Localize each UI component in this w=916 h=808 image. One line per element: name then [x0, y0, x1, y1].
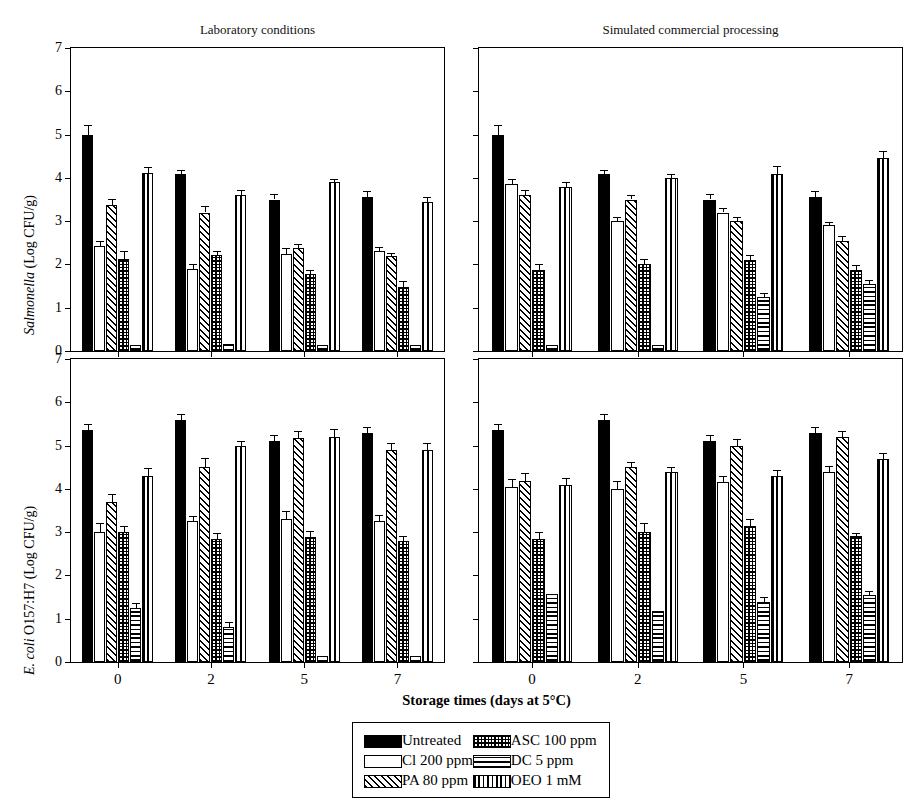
x-axis-tick — [849, 351, 850, 357]
y-axis-tick — [65, 221, 71, 222]
error-bar-cap — [706, 435, 714, 436]
error-bar-cap — [521, 190, 529, 191]
y-axis-tick-label: 6 — [55, 395, 62, 409]
y-axis-tick — [65, 351, 71, 352]
bar — [82, 135, 93, 351]
bar — [410, 345, 421, 351]
bar — [223, 344, 234, 351]
error-bar-cap — [270, 194, 278, 195]
bar — [130, 608, 141, 662]
error-bar-cap — [600, 170, 608, 171]
legend-swatch-cell — [473, 770, 511, 790]
plot-salmonella-laboratory: 012345670257 — [70, 47, 445, 352]
error-bar-cap — [494, 125, 502, 126]
x-axis-tick — [743, 662, 744, 668]
bar — [118, 259, 129, 351]
bar — [744, 526, 757, 662]
plot-ecoli-laboratory: 012345670257 — [70, 358, 445, 663]
y-axis-tick-label: 5 — [55, 439, 62, 453]
bar — [771, 476, 784, 662]
panel-title-right: Simulated commercial processing — [478, 22, 903, 38]
bar — [665, 472, 678, 662]
legend-row: Cl 200 ppm DC 5 ppm — [364, 750, 597, 770]
y-axis-tick — [65, 575, 71, 576]
bar — [611, 489, 624, 662]
bar — [652, 611, 665, 662]
bar — [175, 174, 186, 351]
bar — [823, 472, 836, 662]
plot-ecoli-commercial: 0257 — [478, 358, 903, 663]
error-bar-cap — [865, 280, 873, 281]
bar — [625, 467, 638, 662]
error-bar-cap — [494, 424, 502, 425]
error-bar — [88, 125, 89, 135]
bar — [317, 345, 328, 351]
error-bar-cap — [535, 264, 543, 265]
error-bar-cap — [773, 166, 781, 167]
y-axis-tick — [473, 402, 479, 403]
y-axis-tick — [65, 489, 71, 490]
bar — [492, 430, 505, 662]
bar — [374, 521, 385, 662]
error-bar-cap — [177, 414, 185, 415]
error-bar-cap — [640, 259, 648, 260]
bar — [329, 437, 340, 662]
legend-row: PA 80 ppm OEO 1 mM — [364, 770, 597, 790]
bar — [532, 539, 545, 662]
error-bar-cap — [330, 429, 338, 430]
error-bar-cap — [733, 439, 741, 440]
y-axis-tick — [65, 48, 71, 49]
error-bar-cap — [811, 427, 819, 428]
error-bar-cap — [306, 270, 314, 271]
y-axis-tick — [65, 662, 71, 663]
bar — [269, 200, 280, 352]
y-axis-tick-label: 0 — [55, 655, 62, 669]
y-axis-tick-label: 4 — [55, 171, 62, 185]
error-bar-cap — [760, 597, 768, 598]
y-axis-tick — [473, 575, 479, 576]
y-axis-tick-label: 6 — [55, 84, 62, 98]
error-bar-cap — [96, 241, 104, 242]
error-bar-cap — [667, 467, 675, 468]
y-axis-tick — [473, 178, 479, 179]
error-bar-cap — [879, 151, 887, 152]
y-axis-label-bottom-unit: O157:H7 (Log CFU/g) — [22, 506, 37, 639]
bar — [281, 519, 292, 662]
y-axis-tick — [65, 264, 71, 265]
error-bar-cap — [144, 167, 152, 168]
error-bar-cap — [189, 264, 197, 265]
error-bar-cap — [108, 494, 116, 495]
bar — [235, 195, 246, 351]
bar — [505, 184, 518, 351]
error-bar — [124, 251, 125, 259]
error-bar-cap — [282, 248, 290, 249]
error-bar-cap — [201, 206, 209, 207]
plot-salmonella-commercial: 0257 — [478, 47, 903, 352]
y-axis-label-top-unit: (Log CFU/g) — [22, 195, 37, 272]
bar — [744, 260, 757, 351]
x-axis-tick-label: 7 — [394, 672, 402, 687]
legend-label-dc: DC 5 ppm — [511, 750, 597, 770]
x-axis-tick — [532, 662, 533, 668]
y-axis-tick-label: 3 — [55, 214, 62, 228]
error-bar-cap — [294, 244, 302, 245]
bar — [809, 197, 822, 351]
x-axis-tick-label: 0 — [528, 672, 536, 687]
error-bar-cap — [132, 603, 140, 604]
error-bar-cap — [423, 443, 431, 444]
y-axis-tick — [65, 178, 71, 179]
x-axis-tick — [397, 351, 398, 357]
legend-swatch-dc — [473, 755, 511, 768]
y-axis-tick — [65, 308, 71, 309]
bar — [422, 202, 433, 351]
error-bar-cap — [811, 191, 819, 192]
bar — [625, 200, 638, 352]
y-axis-tick-label: 1 — [55, 612, 62, 626]
bar — [757, 602, 770, 662]
error-bar-cap — [282, 511, 290, 512]
bar — [398, 541, 409, 662]
y-axis-tick-label: 2 — [55, 257, 62, 271]
error-bar-cap — [535, 532, 543, 533]
bar — [293, 248, 304, 351]
bar — [118, 532, 129, 662]
